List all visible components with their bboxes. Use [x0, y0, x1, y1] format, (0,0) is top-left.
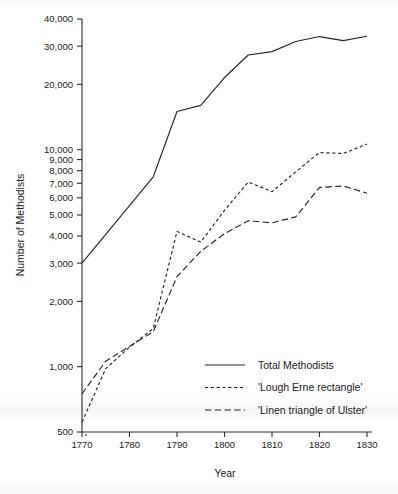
legend-label: Total Methodists — [258, 359, 334, 371]
y-tick-label: 4,000 — [49, 230, 73, 241]
x-axis-title: Year — [214, 467, 236, 479]
chart-legend: Total Methodists'Lough Erne rectangle''L… — [205, 359, 367, 416]
x-tick-label: 1810 — [261, 439, 282, 450]
y-tick-label: 40,000 — [44, 13, 73, 24]
y-tick-label: 6,000 — [49, 192, 73, 203]
x-tick-label: 1830 — [356, 439, 377, 450]
x-tick-label: 1790 — [166, 439, 187, 450]
x-axis: 1770178017901800181018201830 — [71, 432, 377, 450]
y-tick-label: 500 — [57, 426, 73, 437]
methodists-line-chart: 5001,0002,0003,0004,0005,0006,0007,0008,… — [0, 0, 398, 494]
x-tick-label: 1780 — [119, 439, 140, 450]
legend-label: 'Linen triangle of Ulster' — [258, 404, 367, 416]
y-tick-label: 3,000 — [49, 258, 73, 269]
y-tick-label: 2,000 — [49, 296, 73, 307]
x-tick-label: 1820 — [309, 439, 330, 450]
legend-label: 'Lough Erne rectangle' — [258, 381, 362, 393]
y-axis: 5001,0002,0003,0004,0005,0006,0007,0008,… — [44, 13, 82, 437]
y-tick-label: 30,000 — [44, 41, 73, 52]
y-axis-title: Number of Methodists — [14, 174, 26, 277]
chart-figure: 5001,0002,0003,0004,0005,0006,0007,0008,… — [0, 0, 398, 494]
scan-speck — [85, 434, 87, 436]
y-tick-label: 20,000 — [44, 79, 73, 90]
x-tick-label: 1800 — [214, 439, 235, 450]
y-tick-label: 9,000 — [49, 154, 73, 165]
y-tick-label: 5,000 — [49, 209, 73, 220]
y-tick-label: 8,000 — [49, 165, 73, 176]
y-tick-label: 1,000 — [49, 361, 73, 372]
y-tick-label: 7,000 — [49, 178, 73, 189]
x-tick-label: 1770 — [71, 439, 92, 450]
series-line — [82, 36, 367, 263]
y-tick-label: 10,000 — [44, 144, 73, 155]
